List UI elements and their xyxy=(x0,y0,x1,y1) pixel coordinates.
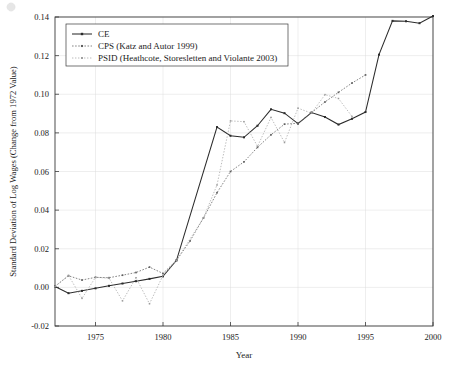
data-point xyxy=(162,275,164,277)
data-point xyxy=(95,277,97,279)
data-point xyxy=(324,101,326,103)
legend-swatch-marker-0 xyxy=(81,33,83,35)
data-point xyxy=(378,54,380,56)
chart-svg: -0.020.000.020.040.060.080.100.120.14197… xyxy=(0,0,449,368)
data-point xyxy=(297,107,299,109)
data-point xyxy=(284,123,286,125)
legend-label-2: PSID (Heathcote, Storesletten and Violan… xyxy=(98,53,277,63)
figure-container: -0.020.000.020.040.060.080.100.120.14197… xyxy=(0,0,449,368)
data-point xyxy=(257,146,259,148)
data-point xyxy=(270,134,272,136)
y-tick-label-3: 0.04 xyxy=(34,205,50,215)
data-point xyxy=(432,15,434,17)
data-point xyxy=(297,122,299,124)
y-axis-title: Standard Deviation of Log Wages (Change … xyxy=(8,66,18,277)
data-point xyxy=(216,126,218,128)
legend-label-1: CPS (Katz and Autor 1999) xyxy=(98,41,198,51)
data-point xyxy=(149,303,151,305)
data-point xyxy=(351,116,353,118)
data-point xyxy=(351,82,353,84)
x-tick-label-4: 1995 xyxy=(357,332,374,342)
data-point xyxy=(68,275,70,277)
x-tick-label-5: 2000 xyxy=(425,332,442,342)
y-tick-label-4: 0.06 xyxy=(34,167,49,177)
data-point xyxy=(54,286,56,288)
x-tick-label-1: 1980 xyxy=(155,332,172,342)
legend-swatch-marker-1 xyxy=(81,45,83,47)
y-tick-label-2: 0.02 xyxy=(34,244,49,254)
data-point xyxy=(68,292,70,294)
data-point xyxy=(81,279,83,281)
y-tick-label-7: 0.12 xyxy=(34,51,49,61)
series-cps xyxy=(54,74,366,287)
series-psid xyxy=(54,94,353,305)
y-tick-label-1: 0.00 xyxy=(34,282,49,292)
data-point xyxy=(270,108,272,110)
data-point xyxy=(365,111,367,113)
data-point xyxy=(176,260,178,262)
series-line-2 xyxy=(55,95,352,304)
data-point xyxy=(108,277,110,279)
data-point xyxy=(216,184,218,186)
data-point xyxy=(405,20,407,22)
data-point xyxy=(122,283,124,285)
legend-item-2[interactable]: PSID (Heathcote, Storesletten and Violan… xyxy=(72,53,277,63)
data-point xyxy=(230,135,232,137)
data-point xyxy=(284,142,286,144)
series-line-1 xyxy=(55,75,366,286)
data-point xyxy=(135,272,137,274)
data-point xyxy=(149,278,151,280)
y-tick-label-5: 0.08 xyxy=(34,128,49,138)
data-point xyxy=(81,298,83,300)
data-point xyxy=(257,125,259,127)
data-point xyxy=(122,300,124,302)
data-point xyxy=(311,112,313,114)
data-point xyxy=(365,74,367,76)
x-tick-label-3: 1990 xyxy=(290,332,307,342)
data-point xyxy=(270,117,272,119)
data-point xyxy=(338,91,340,93)
data-point xyxy=(284,112,286,114)
data-point xyxy=(338,124,340,126)
data-point xyxy=(162,273,164,275)
data-point xyxy=(95,287,97,289)
x-axis-title: Year xyxy=(236,350,253,360)
data-point xyxy=(81,290,83,292)
data-point xyxy=(243,161,245,163)
data-point xyxy=(203,217,205,219)
data-point xyxy=(135,277,137,279)
x-tick-label-2: 1985 xyxy=(222,332,239,342)
data-point xyxy=(324,94,326,96)
scan-artifact xyxy=(7,3,15,11)
data-point xyxy=(149,266,151,268)
legend-swatch-marker-2 xyxy=(81,57,83,59)
data-point xyxy=(108,285,110,287)
data-point xyxy=(392,20,394,22)
y-tick-label-0: -0.02 xyxy=(31,321,49,331)
chart-legend: CECPS (Katz and Autor 1999)PSID (Heathco… xyxy=(66,24,288,66)
data-point xyxy=(419,22,421,24)
data-point xyxy=(135,280,137,282)
y-tick-label-8: 0.14 xyxy=(34,12,50,22)
y-tick-label-6: 0.10 xyxy=(34,89,49,99)
data-point xyxy=(338,98,340,100)
data-point xyxy=(324,116,326,118)
data-point xyxy=(243,121,245,123)
data-point xyxy=(216,192,218,194)
data-point xyxy=(351,118,353,120)
data-point xyxy=(230,120,232,122)
x-tick-label-0: 1975 xyxy=(87,332,104,342)
legend-label-0: CE xyxy=(98,29,110,39)
data-point xyxy=(122,274,124,276)
data-point xyxy=(230,171,232,173)
data-point xyxy=(243,136,245,138)
